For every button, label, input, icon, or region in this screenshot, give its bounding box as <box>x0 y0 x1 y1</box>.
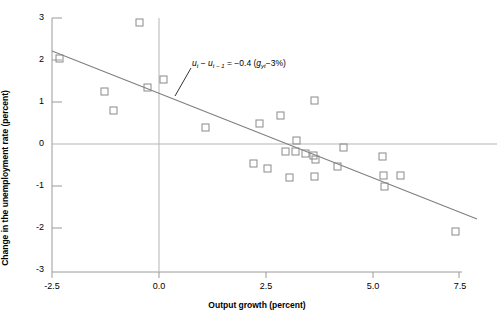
data-point <box>311 173 318 180</box>
data-point <box>136 19 143 26</box>
data-point <box>311 97 318 104</box>
data-point <box>202 124 209 131</box>
data-point <box>277 112 284 119</box>
data-point <box>250 160 257 167</box>
data-point <box>292 148 299 155</box>
data-point <box>282 148 289 155</box>
data-point <box>379 153 386 160</box>
chart-plot-area <box>0 0 502 324</box>
data-point <box>264 165 271 172</box>
data-point <box>380 172 387 179</box>
data-points <box>56 19 459 235</box>
data-point <box>340 144 347 151</box>
regression-line <box>52 51 477 219</box>
x-tick-marks <box>52 272 459 278</box>
y-tick-marks <box>52 18 62 228</box>
data-point <box>397 172 404 179</box>
data-point <box>452 228 459 235</box>
data-point <box>381 183 388 190</box>
data-point <box>286 174 293 181</box>
data-point <box>293 137 300 144</box>
annotation-leader-line <box>175 68 191 96</box>
data-point <box>256 120 263 127</box>
data-point <box>101 88 108 95</box>
data-point <box>56 55 63 62</box>
chart-figure: Change in the unemployment rate (percent… <box>0 0 502 324</box>
data-point <box>160 76 167 83</box>
data-point <box>110 107 117 114</box>
